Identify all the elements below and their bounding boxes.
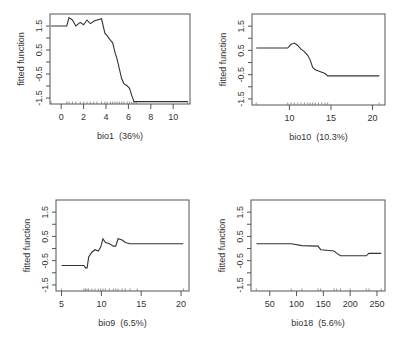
plot-frame [252, 14, 385, 105]
x-tick-label: 200 [343, 299, 358, 309]
y-tick-label: -0.5 [236, 67, 246, 83]
panel-1: -1.5-0.50.51.50246810bio1 (36%)fitted fu… [16, 14, 190, 141]
panel-4: -1.5-0.50.51.550100150200250bio18 (5.6%)… [217, 200, 385, 328]
y-tick-label: -0.5 [40, 253, 50, 269]
y-tick-label: -0.5 [235, 253, 245, 269]
x-tick-label: 2 [81, 112, 86, 122]
y-tick-label: -1.5 [236, 91, 246, 107]
y-tick-label: 1.5 [236, 20, 246, 33]
y-tick-label: -1.5 [40, 277, 50, 293]
y-axis-label: fitted function [22, 219, 32, 273]
y-tick-label: 0.5 [34, 44, 44, 57]
x-tick-label: 50 [265, 299, 275, 309]
plot-frame [251, 200, 385, 291]
x-tick-label: 10 [284, 113, 294, 123]
plot-frame [50, 14, 190, 104]
x-tick-label: 5 [59, 299, 64, 309]
fitted-curve [256, 43, 379, 76]
x-tick-label: 100 [289, 299, 304, 309]
x-axis-label: bio10 (10.3%) [289, 132, 348, 142]
y-tick-label: -1.5 [34, 90, 44, 106]
x-tick-label: 8 [148, 112, 153, 122]
fitted-curve [256, 244, 381, 256]
x-axis-label: bio18 (5.6%) [291, 318, 345, 328]
x-tick-label: 20 [368, 113, 378, 123]
y-axis-label: fitted function [218, 33, 228, 87]
x-tick-label: 15 [136, 299, 146, 309]
fitted-curve [62, 239, 184, 268]
x-tick-label: 15 [326, 113, 336, 123]
x-tick-label: 250 [369, 299, 384, 309]
partial-dependence-plots: -1.5-0.50.51.50246810bio1 (36%)fitted fu… [0, 0, 400, 347]
x-axis-label: bio9 (6.5%) [98, 318, 147, 328]
y-tick-label: 0.5 [236, 44, 246, 57]
y-tick-label: -0.5 [34, 66, 44, 82]
x-tick-label: 10 [96, 299, 106, 309]
y-tick-label: -1.5 [235, 277, 245, 293]
x-axis-label: bio1 (36%) [97, 131, 143, 141]
panel-3: -1.5-0.50.51.55101520bio9 (6.5%)fitted f… [22, 200, 189, 328]
y-tick-label: 1.5 [235, 206, 245, 219]
y-tick-label: 1.5 [40, 206, 50, 219]
y-axis-label: fitted function [217, 219, 227, 273]
y-tick-label: 0.5 [235, 230, 245, 243]
fitted-curve [51, 18, 188, 102]
panel-2: -1.5-0.50.51.5101520bio10 (10.3%)fitted … [218, 14, 385, 142]
x-tick-label: 6 [126, 112, 131, 122]
y-axis-label: fitted function [16, 32, 26, 86]
x-tick-label: 10 [168, 112, 178, 122]
y-tick-label: 1.5 [34, 20, 44, 33]
x-tick-label: 20 [176, 299, 186, 309]
x-tick-label: 150 [316, 299, 331, 309]
plot-frame [56, 200, 189, 291]
x-tick-label: 0 [59, 112, 64, 122]
x-tick-label: 4 [103, 112, 108, 122]
y-tick-label: 0.5 [40, 230, 50, 243]
